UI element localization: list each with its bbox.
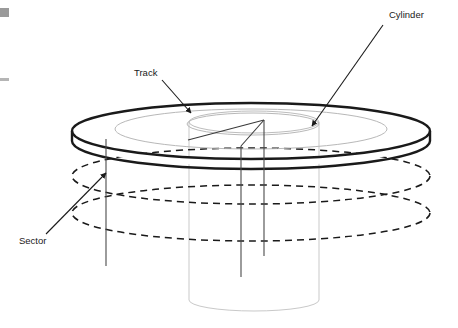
cylinder-label: Cylinder [389,9,424,20]
cylinder-bottom-cap [189,300,319,311]
platter-top [72,103,430,169]
disk-geometry-canvas: Cylinder Track Sector [0,0,458,328]
disk-geometry-diagram: Cylinder Track Sector [0,0,458,328]
sector-annotation: Sector [19,173,106,246]
cylinder-body [189,111,319,311]
edge-artifact-top [0,8,9,17]
sector-indicator-lines [106,120,264,277]
cylinder-top-cap [189,111,319,133]
scan-edge-artifacts [0,8,9,81]
sector-wedge [188,120,264,146]
inner-track-ring-outer [115,109,387,149]
cylinder-annotation: Cylinder [312,9,424,126]
edge-artifact-lower [0,78,9,81]
dashed-platter-lower [72,185,430,241]
sector-label: Sector [19,235,46,246]
track-label: Track [134,67,158,78]
track-leader-line [162,80,191,113]
